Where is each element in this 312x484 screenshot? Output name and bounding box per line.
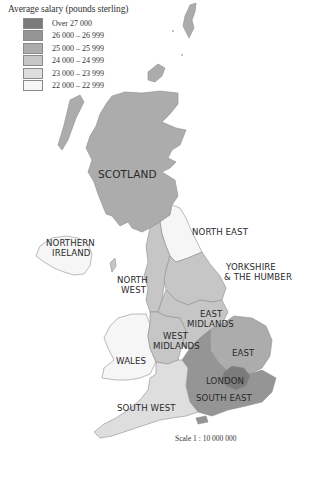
label-north-east: NORTH EAST [192, 227, 249, 237]
label-northern-ireland-1: NORTHERN [46, 238, 95, 248]
label-scotland: SCOTLAND [98, 168, 157, 180]
label-northern-ireland-2: IRELAND [52, 248, 91, 258]
map-scale: Scale 1 : 10 000 000 [175, 434, 236, 443]
uk-map: SCOTLAND NORTH EAST NORTHERN IRELAND YOR… [0, 0, 312, 484]
label-north-west-1: NORTH [117, 275, 148, 285]
label-north-west-2: WEST [121, 285, 147, 295]
region-orkney [148, 64, 165, 82]
label-yorkshire-2: & THE HUMBER [224, 272, 292, 282]
label-south-west: SOUTH WEST [117, 403, 176, 413]
region-hebrides [58, 95, 84, 150]
region-wales [102, 314, 156, 380]
label-east-midlands-1: EAST [200, 309, 223, 319]
region-isle-of-man [110, 258, 116, 272]
region-shetland [183, 3, 196, 38]
label-west-midlands-2: MIDLANDS [153, 341, 200, 351]
label-south-east: SOUTH EAST [196, 393, 253, 403]
island-dot [181, 54, 183, 56]
label-east-midlands-2: MIDLANDS [187, 319, 234, 329]
region-isle-of-wight [196, 416, 208, 424]
label-east: EAST [232, 348, 255, 358]
label-west-midlands-1: WEST [163, 331, 189, 341]
label-wales: WALES [116, 356, 146, 366]
island-dot [172, 30, 174, 32]
label-yorkshire-1: YORKSHIRE [225, 262, 276, 272]
label-london: LONDON [206, 376, 244, 386]
